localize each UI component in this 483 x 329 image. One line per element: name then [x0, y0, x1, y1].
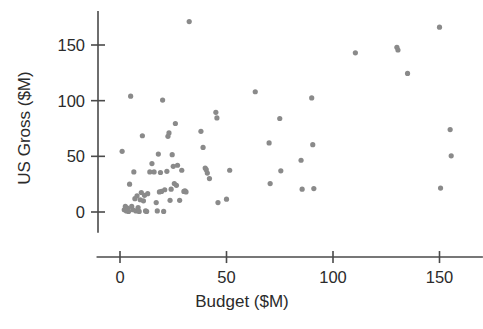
data-point	[187, 19, 192, 24]
axis-ticks: 050100150050100150	[57, 36, 453, 286]
data-point	[160, 98, 165, 103]
data-point	[149, 161, 154, 166]
y-tick-label-150: 150	[57, 36, 85, 54]
data-point	[215, 200, 220, 205]
data-point	[310, 142, 315, 147]
data-point	[140, 133, 145, 138]
data-point	[166, 130, 171, 135]
data-point	[169, 187, 174, 192]
data-point	[311, 186, 316, 191]
data-point	[128, 94, 133, 99]
data-point	[174, 183, 179, 188]
data-point	[162, 187, 167, 192]
plot-canvas: 050100150050100150 Budget ($M) US Gross …	[0, 0, 483, 329]
y-tick-label-100: 100	[57, 92, 85, 110]
y-tick-label-0: 0	[76, 203, 85, 221]
data-point	[175, 163, 180, 168]
x-tick-label-150: 150	[426, 268, 454, 286]
data-point	[161, 209, 166, 214]
data-point	[405, 71, 410, 76]
data-point	[127, 182, 132, 187]
data-point	[353, 50, 358, 55]
data-point	[227, 168, 232, 173]
data-point	[144, 209, 149, 214]
y-axis-title: US Gross ($M)	[15, 71, 34, 184]
data-point	[158, 170, 163, 175]
data-point	[131, 169, 136, 174]
data-points	[120, 19, 454, 214]
data-point	[120, 149, 125, 154]
data-point	[155, 208, 160, 213]
data-point	[179, 168, 184, 173]
data-point	[213, 110, 218, 115]
data-point	[448, 127, 453, 132]
data-point	[170, 152, 175, 157]
data-point	[156, 152, 161, 157]
x-axis-title: Budget ($M)	[195, 292, 289, 311]
data-point	[309, 95, 314, 100]
x-tick-label-100: 100	[319, 268, 347, 286]
data-point	[395, 47, 400, 52]
data-point	[151, 169, 156, 174]
data-point	[164, 169, 169, 174]
data-point	[438, 185, 443, 190]
data-point	[300, 187, 305, 192]
data-point	[267, 140, 272, 145]
data-point	[205, 170, 210, 175]
data-point	[200, 145, 205, 150]
y-tick-label-50: 50	[67, 147, 85, 165]
data-point	[173, 121, 178, 126]
data-point	[268, 181, 273, 186]
data-point	[183, 189, 188, 194]
data-point	[198, 129, 203, 134]
data-point	[214, 115, 219, 120]
data-point	[253, 89, 258, 94]
data-point	[298, 158, 303, 163]
data-point	[437, 25, 442, 30]
data-point	[449, 153, 454, 158]
data-point	[207, 176, 212, 181]
data-point	[177, 198, 182, 203]
x-tick-label-0: 0	[115, 268, 124, 286]
axes	[97, 12, 482, 257]
scatter-plot-figure: 050100150050100150 Budget ($M) US Gross …	[0, 0, 483, 329]
data-point	[167, 198, 172, 203]
data-point	[145, 191, 150, 196]
x-tick-label-50: 50	[217, 268, 235, 286]
data-point	[137, 209, 142, 214]
data-point	[277, 116, 282, 121]
data-point	[278, 168, 283, 173]
data-point	[154, 200, 159, 205]
data-point	[141, 198, 146, 203]
data-point	[224, 197, 229, 202]
